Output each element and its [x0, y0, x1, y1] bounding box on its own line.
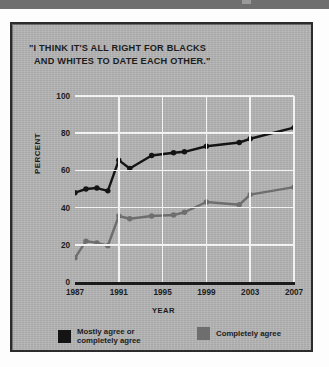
y-tick-label: 100	[56, 92, 70, 101]
legend-swatch-dark	[58, 330, 71, 343]
y-tick-label: 40	[61, 203, 70, 212]
data-point	[105, 188, 110, 193]
x-tick-label: 1999	[197, 288, 215, 297]
gridline-vertical	[293, 96, 295, 282]
legend-label-dark-line1: Mostly agree or	[77, 327, 135, 336]
y-axis-tick-labels: 020406080100	[40, 96, 70, 282]
y-tick-label: 20	[61, 240, 70, 249]
chart-title: "I THINK IT'S ALL RIGHT FOR BLACKS AND W…	[29, 42, 284, 67]
data-point	[237, 140, 242, 145]
top-band-notch	[242, 0, 251, 4]
series-line	[75, 128, 294, 193]
gridline-horizontal	[75, 132, 294, 134]
data-point	[171, 212, 176, 217]
chart-title-line-2: AND WHITES TO DATE EACH OTHER."	[29, 55, 284, 68]
x-tick-label: 1987	[66, 288, 84, 297]
page-top-band	[0, 0, 329, 9]
x-tick-label: 1991	[110, 288, 128, 297]
data-point	[149, 213, 154, 218]
y-tick-label: 80	[61, 129, 70, 138]
legend-label-gray-line1: Completely agree	[216, 329, 281, 338]
x-axis-tick-labels: 198719911995199920032007	[75, 288, 295, 302]
series-2	[75, 184, 294, 260]
gridline-vertical	[206, 96, 208, 282]
legend-item-mostly-or-completely-agree: Mostly agree or completely agree	[58, 327, 141, 346]
legend-item-completely-agree: Completely agree	[197, 327, 281, 340]
chart-legend: Mostly agree or completely agree Complet…	[12, 327, 315, 353]
data-point	[182, 210, 187, 215]
chart-panel: "I THINK IT'S ALL RIGHT FOR BLACKS AND W…	[10, 22, 313, 352]
gridline-horizontal	[75, 207, 294, 209]
gridline-horizontal	[75, 95, 294, 97]
data-point	[83, 186, 88, 191]
data-point	[127, 216, 132, 221]
data-point	[171, 150, 176, 155]
plot-area	[75, 96, 294, 282]
x-axis-line	[75, 282, 295, 285]
page-body: "I THINK IT'S ALL RIGHT FOR BLACKS AND W…	[0, 9, 329, 367]
gridline-vertical	[249, 96, 251, 282]
data-point	[182, 149, 187, 154]
data-point	[83, 238, 88, 243]
legend-swatch-gray	[197, 327, 210, 340]
data-point	[94, 185, 99, 190]
gridline-horizontal	[75, 170, 294, 172]
legend-label-gray: Completely agree	[216, 329, 281, 338]
gridline-horizontal	[75, 244, 294, 246]
chart-title-line-1: "I THINK IT'S ALL RIGHT FOR BLACKS	[29, 42, 284, 55]
x-tick-label: 2003	[241, 288, 259, 297]
data-point	[149, 153, 154, 158]
y-tick-label: 60	[61, 166, 70, 175]
series-layer	[75, 96, 294, 282]
legend-label-dark-line2: completely agree	[77, 336, 141, 345]
x-tick-label: 1995	[153, 288, 171, 297]
gridline-vertical	[118, 96, 120, 282]
gridline-vertical	[162, 96, 164, 282]
y-tick-label: 0	[65, 278, 70, 287]
series-1	[75, 125, 294, 196]
legend-label-dark: Mostly agree or completely agree	[77, 327, 141, 346]
x-axis-label: YEAR	[12, 306, 315, 315]
x-tick-label: 2007	[285, 288, 303, 297]
